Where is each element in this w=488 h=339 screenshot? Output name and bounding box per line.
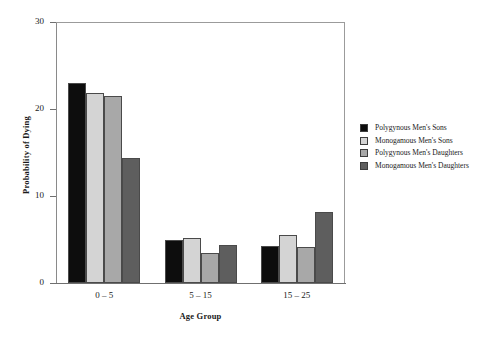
bar [122,158,140,283]
bar [104,96,122,283]
x-axis-title: Age Group [56,311,345,321]
bar [68,83,86,283]
x-axis-tick-label: 0 – 5 [64,290,144,300]
bars-layer [56,22,345,283]
bar [183,238,201,283]
legend-swatch [360,137,368,145]
legend: Polygynous Men's SonsMonogamous Men's So… [360,122,486,172]
legend-label: Polygynous Men's Daughters [375,149,463,157]
bar [261,246,279,283]
bar [219,245,237,283]
bar-group [165,22,237,283]
legend-item: Monogamous Men's Sons [360,135,486,147]
bar [315,212,333,283]
bar-group [68,22,140,283]
bar [165,240,183,284]
y-axis-tick-label: 30 [14,17,44,26]
legend-item: Polygynous Men's Daughters [360,147,486,159]
y-axis-tick-label: 20 [14,104,44,113]
x-axis-line [56,283,346,284]
bar-chart-figure: Probability of Dying 0102030 0 – 55 – 15… [0,0,488,339]
legend-item: Polygynous Men's Sons [360,122,486,134]
x-axis-tick-label: 5 – 15 [161,290,241,300]
legend-swatch [360,124,368,132]
legend-label: Monogamous Men's Daughters [375,162,469,170]
bar [201,253,219,283]
x-axis-tick-label: 15 – 25 [257,290,337,300]
y-axis-tick-label: 0 [14,278,44,287]
bar-group [261,22,333,283]
legend-label: Monogamous Men's Sons [375,137,453,145]
y-axis-tick-label: 10 [14,191,44,200]
legend-swatch [360,162,368,170]
legend-item: Monogamous Men's Daughters [360,160,486,172]
bar [297,247,315,283]
bar [279,235,297,283]
legend-label: Polygynous Men's Sons [375,124,447,132]
bar [86,93,104,283]
legend-swatch [360,149,368,157]
